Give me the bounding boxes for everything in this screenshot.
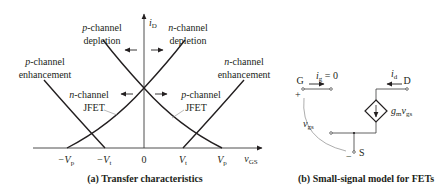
gate-open-terminal	[330, 88, 333, 91]
label-n-channel-depletion-2: depletion	[169, 35, 206, 46]
tick-vp: Vp	[217, 154, 227, 167]
tick-zero: 0	[142, 154, 147, 165]
fet-diagram: iD p-channel depletion n-channel depleti…	[0, 0, 441, 194]
source-terminal	[353, 151, 356, 154]
label-p-channel-depletion: p-channel	[81, 22, 122, 33]
y-axis-label: iD	[149, 17, 157, 30]
label-p-channel-enhancement-2: enhancement	[19, 69, 72, 80]
label-n-channel-jfet: n-channel	[69, 89, 109, 100]
label-p-channel-jfet: p-channel	[180, 89, 221, 100]
vgs-label: vgs	[303, 118, 314, 131]
drain-terminal	[406, 88, 409, 91]
minus-sign: −	[346, 151, 352, 162]
id-label: id	[391, 68, 398, 81]
label-n-channel-jfet-2: JFET	[83, 102, 105, 113]
gate-label: G	[296, 75, 303, 86]
label-p-channel-depletion-2: depletion	[83, 35, 120, 46]
tick-vt: Vt	[179, 154, 187, 167]
source-open-terminal	[330, 132, 333, 135]
ig-label: ig = 0	[316, 70, 338, 83]
label-n-channel-enhancement-2: enhancement	[218, 69, 271, 80]
x-axis-label: vGS	[244, 153, 258, 166]
tick-neg-vp: −Vp	[58, 154, 75, 167]
caption-b: (b) Small-signal model for FETs	[298, 173, 434, 185]
p-jfet-leader	[172, 110, 184, 118]
tick-neg-vt: −Vt	[97, 154, 112, 167]
transfer-characteristics-panel: iD p-channel depletion n-channel depleti…	[19, 14, 271, 185]
source-label: S	[359, 147, 365, 158]
gate-terminal	[302, 88, 305, 91]
label-p-channel-enhancement: p-channel	[24, 56, 65, 67]
drain-label: D	[403, 75, 410, 86]
label-p-channel-jfet-2: JFET	[185, 102, 207, 113]
small-signal-model-panel: G ig = 0 D id gmvgs S + − vgs (b) Small-…	[295, 68, 434, 185]
n-jfet-leader	[104, 110, 117, 115]
label-n-channel-depletion: n-channel	[168, 22, 208, 33]
label-n-channel-enhancement: n-channel	[224, 56, 264, 67]
caption-a: (a) Transfer characteristics	[87, 173, 203, 185]
plus-sign: +	[295, 89, 301, 100]
gm-vgs-label: gmvgs	[391, 105, 412, 118]
